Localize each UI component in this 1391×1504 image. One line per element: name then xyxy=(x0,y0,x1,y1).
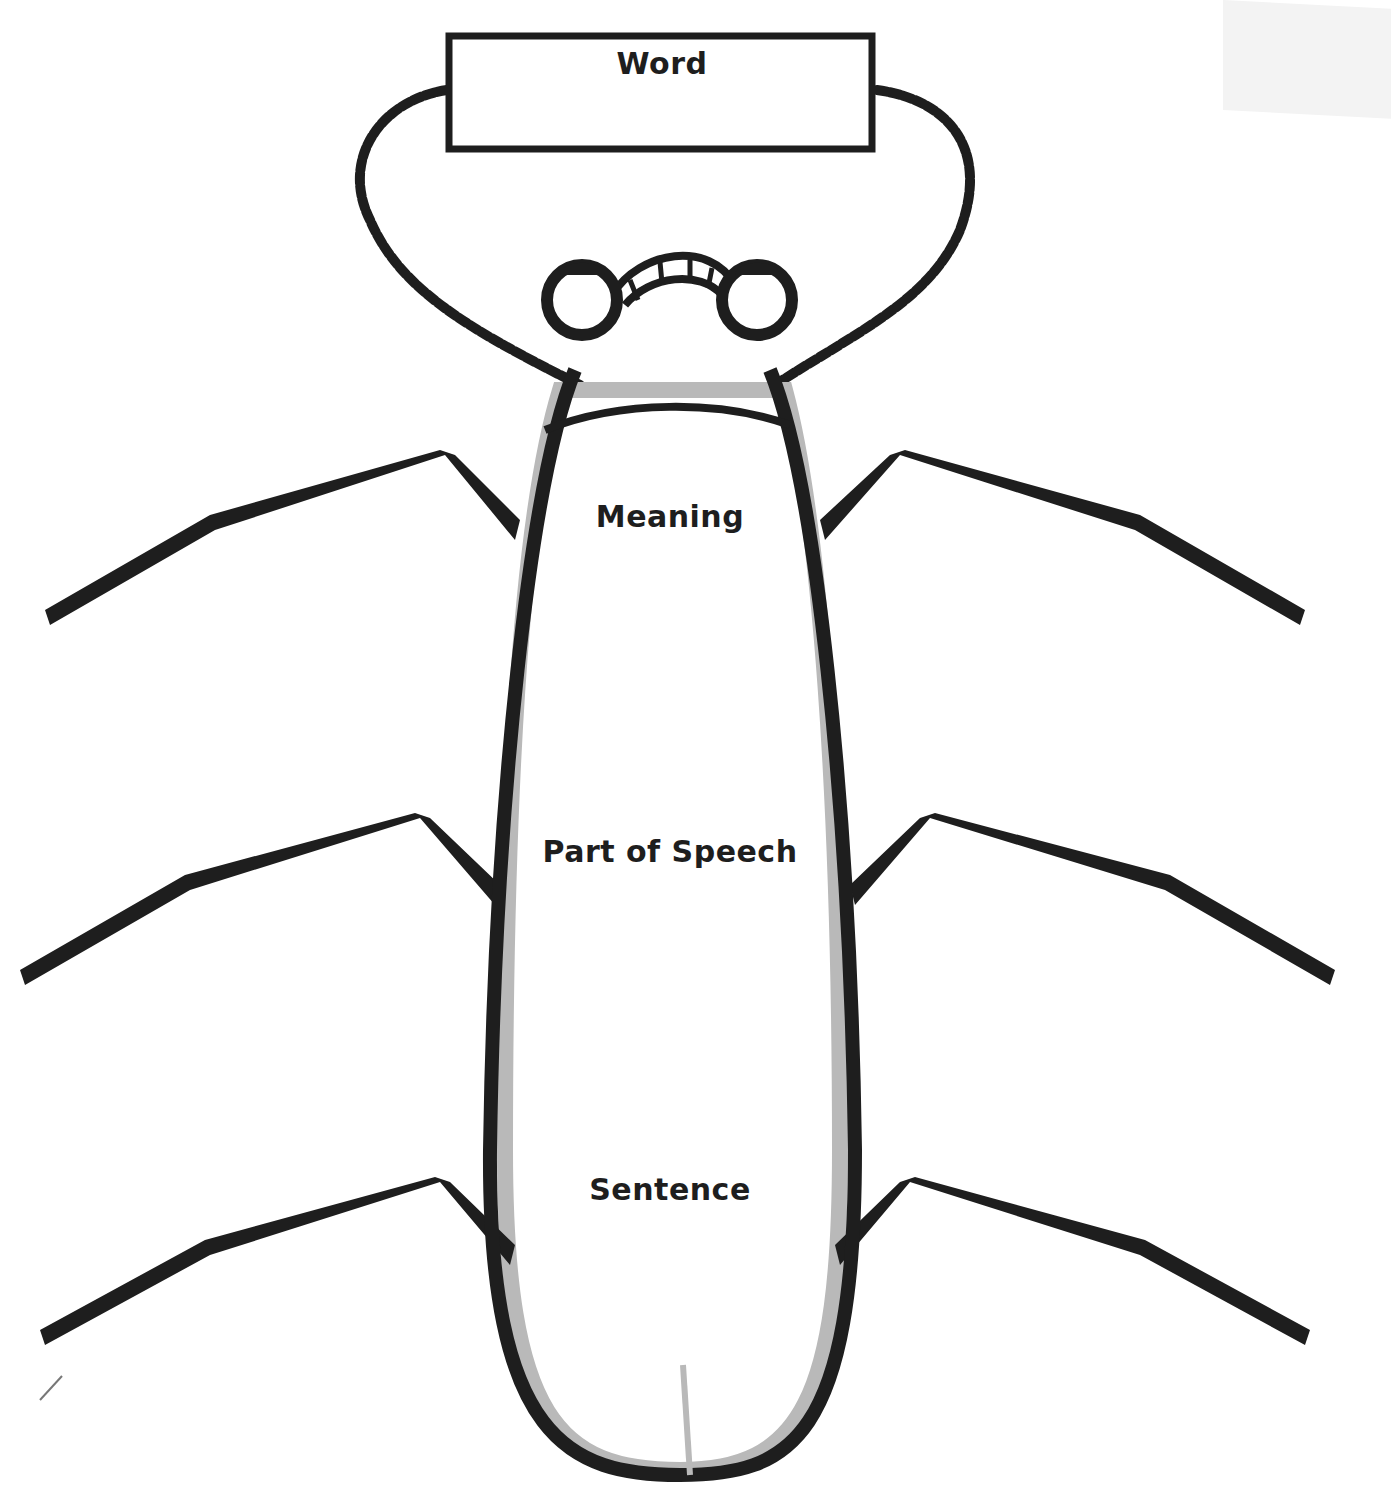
worksheet-page: Word Meaning Part of Speech Sentence xyxy=(0,0,1391,1504)
word-label: Word xyxy=(447,46,877,81)
meaning-label: Meaning xyxy=(520,499,820,534)
sentence-input-area[interactable] xyxy=(540,1218,810,1448)
part-of-speech-input-area[interactable] xyxy=(540,880,810,1110)
word-input-area[interactable] xyxy=(452,95,870,147)
eyes-icon xyxy=(547,263,792,335)
sentence-label: Sentence xyxy=(520,1172,820,1207)
part-of-speech-label: Part of Speech xyxy=(500,834,840,869)
legs-left xyxy=(20,450,520,1345)
legs-right xyxy=(820,450,1335,1345)
meaning-input-area[interactable] xyxy=(540,545,810,775)
